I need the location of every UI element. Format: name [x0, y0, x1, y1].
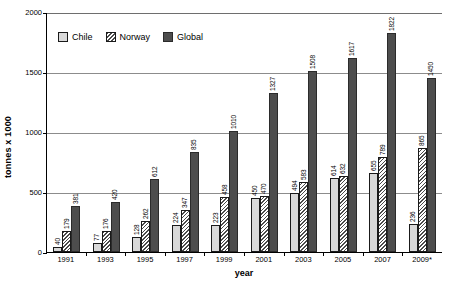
bar-groups: 4017938177176420128262612224347835223458… — [47, 13, 442, 252]
bar-value-label: 1822 — [388, 17, 395, 31]
bar-global: 835 — [190, 152, 199, 252]
bar-group: 2368651450 — [403, 13, 443, 252]
bar-value-label: 583 — [300, 170, 307, 181]
bar-value-label: 1617 — [348, 42, 355, 56]
bar-group: 128262612 — [126, 13, 166, 252]
y-tick-label: 500 — [16, 189, 42, 197]
bar-value-label: 236 — [409, 211, 416, 222]
bar-norway: 865 — [418, 148, 427, 252]
bar-global: 1508 — [308, 71, 317, 252]
x-tick-label: 1997 — [165, 254, 205, 268]
legend-swatch-chile — [58, 32, 68, 42]
bar-value-label: 458 — [221, 185, 228, 196]
bar-value-label: 128 — [133, 224, 140, 235]
bar-global: 1327 — [269, 93, 278, 252]
bar-global: 1450 — [427, 78, 436, 252]
x-axis-tick-labels: 1991199319951997199920012003200520072009… — [46, 254, 442, 268]
bar-value-label: 224 — [172, 213, 179, 224]
bar-norway: 179 — [62, 231, 71, 252]
legend-label: Global — [177, 32, 203, 42]
y-axis-title: tonnes x 1000 — [0, 0, 16, 294]
bar-norway: 583 — [299, 182, 308, 252]
bar-global: 381 — [71, 206, 80, 252]
plot-area: 4017938177176420128262612224347835223458… — [46, 13, 442, 253]
bar-value-label: 835 — [190, 139, 197, 150]
bar-norway: 176 — [102, 231, 111, 252]
bar-global: 612 — [150, 179, 159, 252]
legend-item-global[interactable]: Global — [163, 32, 203, 42]
bar-chile: 236 — [409, 224, 418, 252]
bar-value-label: 381 — [72, 194, 79, 205]
x-axis-title: year — [46, 268, 442, 278]
bar-chile: 224 — [172, 225, 181, 252]
bar-chile: 223 — [211, 225, 220, 252]
bar-value-label: 612 — [151, 166, 158, 177]
x-tick-label: 1991 — [46, 254, 86, 268]
x-tick-label: 1993 — [86, 254, 126, 268]
bar-value-label: 179 — [63, 218, 70, 229]
bar-group: 4504701327 — [245, 13, 285, 252]
legend-item-chile[interactable]: Chile — [58, 32, 93, 42]
bar-value-label: 223 — [212, 213, 219, 224]
y-tick-label: 0 — [16, 249, 42, 257]
bar-value-label: 420 — [111, 189, 118, 200]
bar-global: 1822 — [387, 33, 396, 252]
bar-group: 77176420 — [87, 13, 127, 252]
bar-value-label: 614 — [330, 166, 337, 177]
bar-global: 420 — [111, 202, 120, 252]
bar-value-label: 176 — [102, 218, 109, 229]
bar-group: 224347835 — [166, 13, 206, 252]
x-tick-label: 2003 — [284, 254, 324, 268]
bar-norway: 789 — [378, 157, 387, 252]
legend-item-norway[interactable]: Norway — [106, 32, 151, 42]
legend-swatch-global — [163, 32, 173, 42]
bar-norway: 470 — [260, 196, 269, 252]
x-tick-label: 1995 — [125, 254, 165, 268]
bar-value-label: 632 — [339, 164, 346, 175]
bar-group: 2234581010 — [205, 13, 245, 252]
bar-norway: 632 — [339, 176, 348, 252]
y-axis-tick-labels: 0500100015002000 — [16, 0, 42, 294]
bar-value-label: 1327 — [269, 77, 276, 91]
x-tick-label: 2009* — [402, 254, 442, 268]
x-tick-label: 2007 — [363, 254, 403, 268]
bar-value-label: 450 — [251, 185, 258, 196]
bar-global: 1010 — [229, 131, 238, 252]
bar-value-label: 1010 — [230, 115, 237, 129]
bar-chile: 77 — [93, 243, 102, 252]
y-tick-label: 1000 — [16, 129, 42, 137]
x-tick-label: 2001 — [244, 254, 284, 268]
bar-value-label: 347 — [181, 198, 188, 209]
bar-norway: 458 — [220, 197, 229, 252]
bar-norway: 262 — [141, 221, 150, 252]
bar-chile: 494 — [290, 193, 299, 252]
bar-value-label: 789 — [379, 145, 386, 156]
legend-label: Chile — [72, 32, 93, 42]
bar-group: 4945831508 — [284, 13, 324, 252]
bar-group: 6557891822 — [363, 13, 403, 252]
bar-value-label: 655 — [370, 161, 377, 172]
x-tick-label: 2005 — [323, 254, 363, 268]
bar-value-label: 470 — [260, 183, 267, 194]
bar-value-label: 77 — [93, 234, 100, 241]
y-tick-label: 2000 — [16, 9, 42, 17]
bar-chile: 655 — [369, 173, 378, 252]
bar-chile: 450 — [251, 198, 260, 252]
x-tick-label: 1999 — [204, 254, 244, 268]
bar-value-label: 262 — [142, 208, 149, 219]
legend-label: Norway — [120, 32, 151, 42]
bar-chart: tonnes x 1000 0500100015002000 401793817… — [0, 0, 449, 294]
bar-value-label: 1450 — [427, 62, 434, 76]
bar-value-label: 865 — [418, 136, 425, 147]
bar-chile: 128 — [132, 237, 141, 252]
y-tick-label: 1500 — [16, 69, 42, 77]
chart-legend: ChileNorwayGlobal — [58, 32, 203, 42]
bar-chile: 614 — [330, 178, 339, 252]
bar-value-label: 494 — [291, 180, 298, 191]
bar-value-label: 1508 — [309, 55, 316, 69]
legend-swatch-norway — [106, 32, 116, 42]
bar-group: 40179381 — [47, 13, 87, 252]
bar-global: 1617 — [348, 58, 357, 252]
bar-value-label: 40 — [54, 238, 61, 245]
bar-group: 6146321617 — [324, 13, 364, 252]
